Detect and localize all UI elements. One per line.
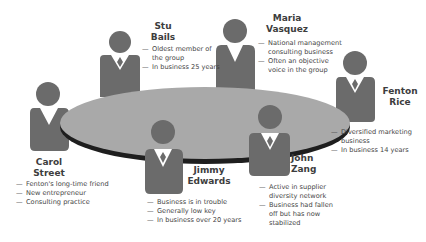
last-name: Street <box>16 168 82 179</box>
person-name-fenton-rice: Fenton Rice <box>376 86 424 108</box>
person-card-maria-vasquez: Maria Vasquez National management consul… <box>258 13 348 75</box>
note-item: National management consulting business <box>258 39 348 57</box>
person-notes-john-zang: Active in supplier diversity network Bus… <box>259 183 341 228</box>
meeting-table-diagram: Stu Bails Oldest member of the group In … <box>0 0 426 242</box>
note-item: Active in supplier diversity network <box>259 183 341 201</box>
last-name: Bails <box>146 32 180 43</box>
person-notes-jimmy-edwards: Business is in trouble Generally low key… <box>147 198 257 225</box>
first-name: Maria <box>262 13 312 24</box>
person-name: John Zang <box>291 153 325 175</box>
note-item: In business 25 years <box>142 63 222 72</box>
first-name: Carol <box>16 157 82 168</box>
note-item: In business over 20 years <box>147 216 257 225</box>
person-name-john-zang: John Zang <box>291 153 325 175</box>
note-item: Consulting practice <box>16 198 126 207</box>
first-name: Stu <box>146 21 180 32</box>
note-item: Often an objective voice in the group <box>258 57 348 75</box>
note-item: Business had fallen off but has now stab… <box>259 201 341 228</box>
person-icon-stu-bails <box>100 31 140 97</box>
first-name: Fenton <box>376 86 424 97</box>
person-card-stu-bails: Stu Bails Oldest member of the group In … <box>142 21 232 72</box>
person-name-jimmy-edwards: Jimmy Edwards <box>184 165 234 187</box>
last-name: Zang <box>291 164 325 175</box>
person-notes: Fenton's long-time friend New entreprene… <box>16 180 126 207</box>
person-card-carol-street: Carol Street Fenton's long-time friend N… <box>16 157 126 207</box>
first-name: Jimmy <box>184 165 234 176</box>
note-item: Oldest member of the group <box>142 45 222 63</box>
person-notes: National management consulting business … <box>258 39 348 75</box>
person-name: Jimmy Edwards <box>184 165 234 187</box>
person-name: Maria Vasquez <box>262 13 312 35</box>
note-item: In business 14 years <box>331 146 423 155</box>
person-notes-fenton-rice: Diversified marketing business In busine… <box>331 128 423 155</box>
note-item: Fenton's long-time friend <box>16 180 126 189</box>
note-item: Generally low key <box>147 207 257 216</box>
person-name: Carol Street <box>16 157 82 179</box>
person-notes: Oldest member of the group In business 2… <box>142 45 222 72</box>
note-item: Diversified marketing business <box>331 128 423 146</box>
person-name: Fenton Rice <box>376 86 424 108</box>
first-name: John <box>291 153 325 164</box>
note-item: New entrepreneur <box>16 189 126 198</box>
note-item: Business is in trouble <box>147 198 257 207</box>
last-name: Edwards <box>184 176 234 187</box>
last-name: Vasquez <box>262 24 312 35</box>
last-name: Rice <box>376 97 424 108</box>
person-name: Stu Bails <box>146 21 180 43</box>
